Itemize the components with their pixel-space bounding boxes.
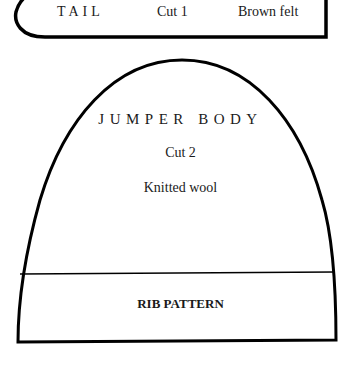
jumper-body-title: JUMPER BODY xyxy=(0,111,361,128)
tail-material: Brown felt xyxy=(238,4,298,20)
rib-pattern-label: RIB PATTERN xyxy=(0,296,361,312)
tail-cut-count: Cut 1 xyxy=(157,4,188,20)
tail-title: TAIL xyxy=(57,4,104,20)
rib-divider-line xyxy=(20,272,334,274)
jumper-body-material: Knitted wool xyxy=(0,180,361,196)
jumper-body-cut-count: Cut 2 xyxy=(0,145,361,161)
